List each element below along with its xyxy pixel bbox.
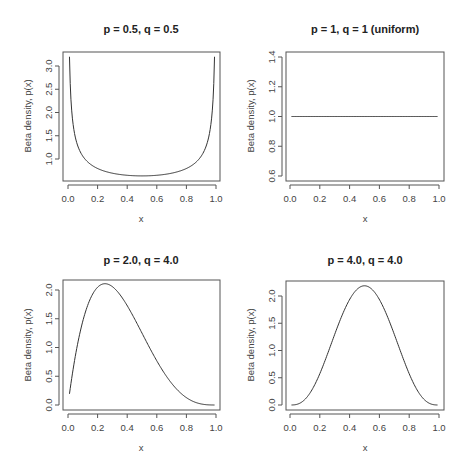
y-tick-label: 1.5 <box>43 129 54 142</box>
x-axis-label: x <box>363 213 368 224</box>
x-tick-label: 0.2 <box>313 193 326 204</box>
x-tick-label: 0.6 <box>150 193 163 204</box>
panel-beta-1-1-uniform: p = 1, q = 1 (uniform) 0.00.20.40.60.81.… <box>245 23 446 224</box>
x-tick-label: 0.8 <box>403 422 416 433</box>
y-axis-label: Beta density, p(x) <box>22 79 33 152</box>
x-tick-label: 0.6 <box>373 422 386 433</box>
density-curve <box>69 284 214 405</box>
x-tick-label: 1.0 <box>209 193 222 204</box>
x-tick-label: 0.6 <box>373 193 386 204</box>
plot-frame <box>63 280 220 410</box>
y-tick-label: 0.8 <box>266 140 277 153</box>
x-axis-label: x <box>363 442 368 453</box>
y-tick-label: 1.0 <box>266 110 277 123</box>
y-tick-label: 0.5 <box>266 371 277 384</box>
x-tick-label: 0.0 <box>283 193 296 204</box>
y-tick-label: 0.6 <box>266 169 277 182</box>
y-tick-label: 1.2 <box>266 80 277 93</box>
x-tick-label: 0.4 <box>343 422 356 433</box>
x-axis: 0.00.20.40.60.81.0 <box>283 414 445 433</box>
x-axis-label: x <box>139 213 144 224</box>
x-axis-label: x <box>139 442 144 453</box>
y-tick-label: 1.0 <box>43 341 54 354</box>
panel-beta-4-4: p = 4.0, q = 4.0 0.00.20.40.60.81.0 0.00… <box>245 254 446 453</box>
x-tick-label: 0.4 <box>343 193 356 204</box>
x-tick-label: 0.2 <box>91 193 104 204</box>
x-tick-label: 0.6 <box>150 422 163 433</box>
panel-title: p = 0.5, q = 0.5 <box>103 23 178 35</box>
density-curve <box>291 286 437 405</box>
y-tick-label: 2.5 <box>43 83 54 96</box>
y-tick-label: 0.0 <box>43 398 54 411</box>
x-axis: 0.00.20.40.60.81.0 <box>283 185 445 204</box>
y-tick-label: 1.0 <box>43 152 54 165</box>
x-tick-label: 0.4 <box>121 422 134 433</box>
x-tick-label: 1.0 <box>432 193 445 204</box>
x-tick-label: 0.8 <box>180 193 193 204</box>
figure: p = 0.5, q = 0.5 0.00.20.40.60.81.0 1.01… <box>0 0 472 475</box>
y-axis-label: Beta density, p(x) <box>22 308 33 381</box>
x-tick-label: 0.0 <box>61 422 74 433</box>
panel-beta-2-4: p = 2.0, q = 4.0 0.00.20.40.60.81.0 0.00… <box>22 254 223 453</box>
plot-frame <box>286 281 444 410</box>
x-tick-label: 1.0 <box>432 422 445 433</box>
x-tick-label: 0.4 <box>121 193 134 204</box>
y-tick-label: 2.0 <box>43 106 54 119</box>
y-axis-label: Beta density, p(x) <box>245 308 256 381</box>
x-tick-label: 0.0 <box>283 422 296 433</box>
y-tick-label: 1.0 <box>266 344 277 357</box>
y-tick-label: 1.5 <box>266 317 277 330</box>
x-tick-label: 0.2 <box>313 422 326 433</box>
x-tick-label: 0.8 <box>180 422 193 433</box>
y-axis-label: Beta density, p(x) <box>245 79 256 152</box>
x-tick-label: 1.0 <box>209 422 222 433</box>
y-axis: 1.01.52.02.53.0 <box>43 59 59 165</box>
panel-title: p = 4.0, q = 4.0 <box>327 254 402 266</box>
x-tick-label: 0.8 <box>403 193 416 204</box>
y-tick-label: 0.0 <box>266 398 277 411</box>
x-axis: 0.00.20.40.60.81.0 <box>61 414 222 433</box>
y-tick-label: 3.0 <box>43 59 54 72</box>
panel-title: p = 2.0, q = 4.0 <box>103 254 178 266</box>
y-axis: 0.60.81.01.21.4 <box>266 50 282 182</box>
y-axis: 0.00.51.01.52.0 <box>43 283 59 411</box>
panel-title: p = 1, q = 1 (uniform) <box>311 23 420 35</box>
x-axis: 0.00.20.40.60.81.0 <box>61 185 222 204</box>
y-tick-label: 2.0 <box>266 289 277 302</box>
density-curve <box>69 57 214 176</box>
y-tick-label: 1.5 <box>43 312 54 325</box>
y-axis: 0.00.51.01.52.0 <box>266 289 282 411</box>
x-tick-label: 0.2 <box>91 422 104 433</box>
y-tick-label: 0.5 <box>43 370 54 383</box>
y-tick-label: 1.4 <box>266 50 277 63</box>
y-tick-label: 2.0 <box>43 283 54 296</box>
panel-beta-0.5-0.5: p = 0.5, q = 0.5 0.00.20.40.60.81.0 1.01… <box>22 23 223 224</box>
x-tick-label: 0.0 <box>61 193 74 204</box>
